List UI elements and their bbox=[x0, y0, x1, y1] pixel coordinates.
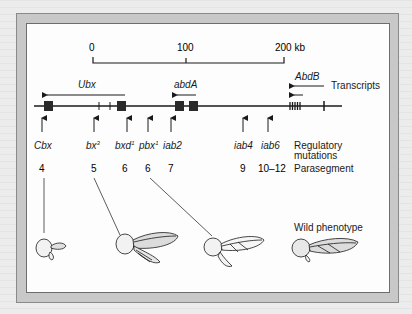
fly-pbx1-illustration bbox=[204, 237, 264, 267]
mutation-pbx1: pbx1 bbox=[138, 140, 158, 151]
parasegment-value: 10–12 bbox=[258, 163, 286, 174]
scale-tick-200kb: 200 kb bbox=[275, 42, 305, 53]
parasegment-value: 4 bbox=[39, 163, 45, 174]
fly-bx3-illustration bbox=[116, 233, 178, 263]
scale-tick-0: 0 bbox=[89, 42, 95, 53]
exon-block bbox=[175, 101, 184, 111]
parasegment-value: 5 bbox=[91, 163, 97, 174]
chromosome-map bbox=[34, 101, 342, 111]
gene-label-abdb: AbdB bbox=[294, 71, 320, 82]
parasegment-value: 6 bbox=[145, 163, 151, 174]
mutation-cbx: Cbx bbox=[34, 140, 53, 151]
mutation-labels: Cbx bx3 bxd1 pbx1 iab2 iab4 iab6 Regulat… bbox=[34, 140, 342, 161]
mutation-arrows bbox=[42, 118, 268, 132]
scale-bar: 0 100 200 kb bbox=[89, 42, 305, 63]
gene-label-abda: abdA bbox=[174, 79, 198, 90]
gene-label-ubx: Ubx bbox=[78, 79, 97, 90]
parasegment-value: 9 bbox=[240, 163, 246, 174]
exon-block bbox=[44, 101, 53, 111]
exon-block bbox=[189, 101, 198, 111]
mutation-bxd1: bxd1 bbox=[115, 140, 134, 151]
fly-wild-illustration bbox=[292, 238, 358, 262]
parasegment-label: Parasegment bbox=[294, 163, 354, 174]
transcripts-label: Transcripts bbox=[331, 80, 380, 91]
wild-phenotype-label: Wild phenotype bbox=[294, 222, 363, 233]
fly-cbx-illustration bbox=[36, 239, 66, 260]
transcripts: Ubx abdA AbdB Transcripts bbox=[47, 71, 380, 95]
phenotype-connectors bbox=[44, 178, 212, 236]
bithorax-complex-diagram: 0 100 200 kb Ubx abdA AbdB Transcripts bbox=[0, 0, 412, 314]
regulatory-label-line2: mutations bbox=[294, 150, 337, 161]
parasegment-row: 4 5 6 6 7 9 10–12 Parasegment bbox=[39, 163, 354, 174]
parasegment-value: 6 bbox=[122, 163, 128, 174]
mutation-iab2: iab2 bbox=[163, 140, 182, 151]
parasegment-value: 7 bbox=[168, 163, 174, 174]
exon-block bbox=[117, 101, 126, 111]
mutation-iab4: iab4 bbox=[234, 140, 253, 151]
scale-tick-100: 100 bbox=[177, 42, 194, 53]
mutation-iab6: iab6 bbox=[261, 140, 280, 151]
mutation-bx3: bx3 bbox=[86, 140, 101, 151]
